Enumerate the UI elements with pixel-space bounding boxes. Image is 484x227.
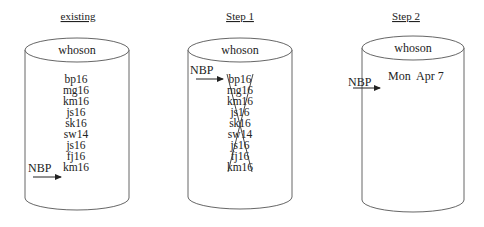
diagram-canvas: existing whoson bp16 mg16 km16 js16 sk16… — [0, 0, 484, 227]
panel-title: Step 1 — [226, 10, 254, 22]
panel-title: existing — [61, 10, 96, 22]
panel-title: Step 2 — [392, 10, 420, 22]
nbp-label: NBP — [348, 75, 372, 89]
nbp-label: NBP — [28, 161, 52, 175]
database-label: whoson — [58, 43, 95, 57]
database-cylinder — [362, 36, 464, 212]
panel-existing: existing whoson bp16 mg16 km16 js16 sk16… — [25, 10, 129, 210]
nbp-label: NBP — [190, 63, 214, 77]
list-item: Mon Apr 7 — [388, 69, 444, 83]
panel-step-1: Step 1 whoson bp16 mg16 km16 js16 sk16 s… — [188, 10, 292, 209]
list-item: km16 — [63, 161, 89, 173]
database-label: whoson — [221, 43, 258, 57]
database-label: whoson — [394, 41, 431, 55]
panel-step-2: Step 2 whoson Mon Apr 7 NBP — [348, 10, 464, 212]
